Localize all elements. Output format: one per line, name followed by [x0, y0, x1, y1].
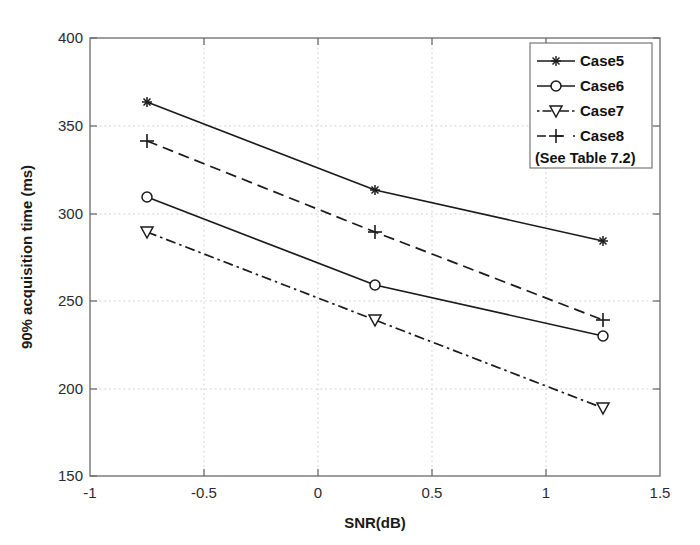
legend: Case5 Case6 Case7 Case8 (See Table 7.2)	[530, 43, 652, 168]
chart-figure: 400 350 300 250 200 150 -1 -0.5 0 0.5 1 …	[0, 0, 700, 545]
x-tick-label-0.5: 0.5	[422, 484, 443, 501]
x-tick-label-1: 1	[542, 484, 550, 501]
legend-label-case5: Case5	[580, 52, 624, 69]
marker-circle	[598, 331, 608, 341]
y-tick-label-400: 400	[58, 29, 83, 46]
y-tick-label-200: 200	[58, 380, 83, 397]
legend-marker-asterisk	[551, 56, 561, 66]
legend-label-case7: Case7	[580, 102, 624, 119]
y-axis-title: 90% acquisition time (ms)	[18, 165, 35, 349]
marker-asterisk	[370, 185, 380, 195]
x-tick-label-neg1: -1	[83, 484, 96, 501]
legend-note: (See Table 7.2)	[535, 150, 636, 166]
marker-circle	[370, 280, 380, 290]
marker-asterisk	[598, 236, 608, 246]
y-tick-label-150: 150	[58, 467, 83, 484]
x-tick-label-1.5: 1.5	[650, 484, 671, 501]
x-axis-title: SNR(dB)	[344, 514, 406, 531]
x-tick-label-neg0.5: -0.5	[191, 484, 217, 501]
legend-marker-circle	[551, 81, 561, 91]
marker-circle	[142, 192, 152, 202]
legend-label-case6: Case6	[580, 77, 624, 94]
legend-label-case8: Case8	[580, 127, 624, 144]
y-tick-label-250: 250	[58, 292, 83, 309]
y-tick-label-300: 300	[58, 205, 83, 222]
y-tick-label-350: 350	[58, 117, 83, 134]
x-tick-label-0: 0	[314, 484, 322, 501]
marker-asterisk	[142, 97, 152, 107]
